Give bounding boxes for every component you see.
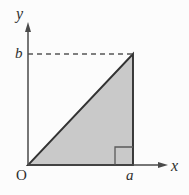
base-tick-label-a: a: [126, 168, 134, 183]
x-axis-arrow-icon: [158, 162, 168, 168]
triangle-figure: y x b a O: [0, 0, 189, 195]
y-axis-arrow-icon: [25, 22, 31, 32]
figure-canvas: [0, 0, 189, 195]
height-tick-label-b: b: [15, 46, 23, 61]
origin-label: O: [16, 168, 27, 183]
x-axis-label: x: [171, 158, 178, 174]
y-axis-label: y: [16, 6, 23, 22]
